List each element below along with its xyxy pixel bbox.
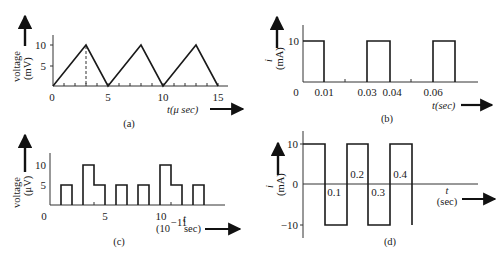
- y-tick-10: 10: [287, 138, 299, 150]
- x-tick-5: 5: [102, 210, 108, 222]
- x-axis-label: t: [446, 185, 450, 196]
- pulse-3: [433, 41, 455, 82]
- y-axis-label: voltage: [11, 177, 22, 208]
- caption-d: (d): [384, 236, 397, 248]
- pulse-1: [303, 41, 324, 82]
- pulse-4: [138, 185, 149, 205]
- x-tick-0.06: 0.06: [423, 86, 443, 98]
- x-tick-10: 10: [156, 210, 168, 222]
- caption-c: (c): [113, 236, 125, 248]
- y-axis-label: i: [264, 185, 275, 188]
- y-tick-10: 10: [35, 159, 47, 171]
- pulse-6: [193, 185, 204, 205]
- panel-d: i (mA) 10 0 −10 0.1 0.2 0.3 0.4 t (sec) …: [264, 131, 495, 248]
- pulse-1: [61, 185, 72, 205]
- x-tick-15: 15: [213, 91, 225, 103]
- x-tick-0: 0: [49, 91, 55, 103]
- pulse-3: [116, 185, 127, 205]
- x-tick-0.01: 0.01: [314, 86, 333, 98]
- x-axis-label: t(μ sec): [167, 104, 199, 116]
- x-tick-0.04: 0.04: [382, 86, 402, 98]
- figure: voltage (mV) 10 5 0 5 10 15 t(μ sec): [0, 0, 503, 256]
- y-axis-unit: (mA): [274, 47, 286, 70]
- x-tick-0.1: 0.1: [327, 186, 341, 198]
- caption-a: (a): [123, 118, 135, 130]
- y-tick-neg10: −10: [281, 219, 299, 231]
- x-axis-unit: (sec): [437, 196, 458, 208]
- x-tick-0.2: 0.2: [350, 168, 364, 180]
- x-tick-0.3: 0.3: [371, 186, 385, 198]
- panel-a: voltage (mV) 10 5 0 5 10 15 t(μ sec): [11, 16, 243, 130]
- x-tick-0.03: 0.03: [357, 86, 377, 98]
- y-axis-unit: (mV): [22, 57, 34, 80]
- y-axis-unit: (mA): [275, 173, 287, 196]
- y-axis-label: voltage: [11, 51, 22, 82]
- x-tick-0.4: 0.4: [393, 168, 407, 180]
- y-tick-10: 10: [288, 35, 300, 47]
- panel-c: voltage (μV) 10 5 0 5 10 t (10 −11 sec) …: [11, 135, 240, 248]
- y-tick-0: 0: [293, 178, 299, 190]
- triangle-wave: [53, 45, 218, 86]
- pulse-5: [160, 165, 182, 205]
- x-axis-label: t(sec): [432, 100, 456, 112]
- y-axis-label: i: [263, 59, 274, 62]
- x-axis-unit-suffix: sec): [184, 223, 201, 235]
- y-axis-unit: (μV): [22, 175, 34, 196]
- caption-b: (b): [381, 113, 394, 125]
- pulse-2: [367, 41, 390, 82]
- y-tick-5: 5: [41, 179, 47, 191]
- x-tick-0: 0: [41, 210, 47, 222]
- y-tick-10: 10: [35, 39, 47, 51]
- x-tick-10: 10: [158, 91, 170, 103]
- x-tick-0: 0: [293, 86, 299, 98]
- x-axis-unit-prefix: (10: [156, 223, 170, 235]
- panel-b: i (mA) 10 0 0.01 0.03 0.04 0.06 t(sec) (…: [263, 17, 492, 125]
- y-tick-5: 5: [41, 60, 47, 72]
- x-tick-5: 5: [105, 91, 111, 103]
- pulse-2: [83, 165, 105, 205]
